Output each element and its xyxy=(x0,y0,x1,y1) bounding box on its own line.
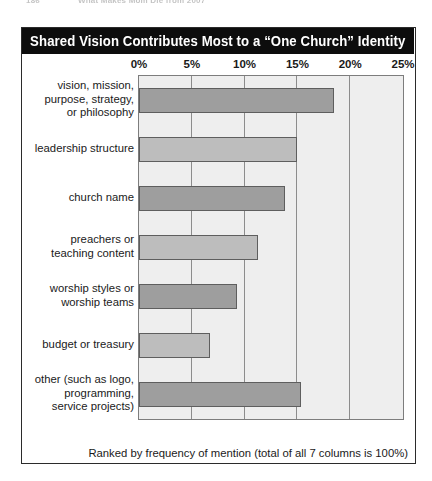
chart-footnote: Ranked by frequency of mention (total of… xyxy=(88,447,408,459)
category-label: church name xyxy=(22,191,134,204)
category-label: leadership structure xyxy=(22,142,134,155)
category-label-line: budget or treasury xyxy=(22,338,134,351)
y-axis-category-labels: vision, mission,purpose, strategy,or phi… xyxy=(22,75,134,420)
category-label: budget or treasury xyxy=(22,338,134,351)
category-label-line: preachers or xyxy=(22,233,134,246)
bar xyxy=(139,235,258,260)
x-tick-label: 0% xyxy=(131,58,148,70)
bar xyxy=(139,333,210,358)
x-tick-label: 10% xyxy=(233,58,256,70)
category-label-line: worship teams xyxy=(22,296,134,309)
category-label-line: teaching content xyxy=(22,247,134,260)
category-label-line: leadership structure xyxy=(22,142,134,155)
category-label-line: service projects) xyxy=(22,400,134,413)
bar xyxy=(139,137,297,162)
category-label-line: worship styles or xyxy=(22,282,134,295)
figure-frame: Shared Vision Contributes Most to a “One… xyxy=(21,27,416,464)
category-label-line: church name xyxy=(22,191,134,204)
x-axis-tick-labels: 0%5%10%15%20%25% xyxy=(22,58,414,74)
chart-title: Shared Vision Contributes Most to a “One… xyxy=(30,33,405,49)
category-label: vision, mission,purpose, strategy,or phi… xyxy=(22,79,134,119)
category-label: preachers orteaching content xyxy=(22,233,134,260)
category-label-line: other (such as logo, xyxy=(22,373,134,386)
category-label: other (such as logo,programming,service … xyxy=(22,373,134,413)
x-tick-label: 15% xyxy=(286,58,309,70)
x-tick-label: 25% xyxy=(391,58,414,70)
page-number: 186 xyxy=(26,0,40,5)
book-title: What Makes Mom Die from 2007 xyxy=(78,0,205,5)
category-label-line: vision, mission, xyxy=(22,79,134,92)
bar xyxy=(139,382,301,407)
chart-title-bar: Shared Vision Contributes Most to a “One… xyxy=(22,28,414,54)
x-tick-label: 5% xyxy=(183,58,200,70)
chart-body: 0%5%10%15%20%25% vision, mission,purpose… xyxy=(22,54,414,463)
bar xyxy=(139,186,285,211)
bar-series xyxy=(139,76,403,419)
category-label: worship styles orworship teams xyxy=(22,282,134,309)
x-tick-label: 20% xyxy=(339,58,362,70)
category-label-line: purpose, strategy, xyxy=(22,93,134,106)
bar xyxy=(139,88,334,113)
category-label-line: or philosophy xyxy=(22,106,134,119)
bar xyxy=(139,284,237,309)
category-label-line: programming, xyxy=(22,387,134,400)
running-head: 186 What Makes Mom Die from 2007 xyxy=(0,0,432,11)
